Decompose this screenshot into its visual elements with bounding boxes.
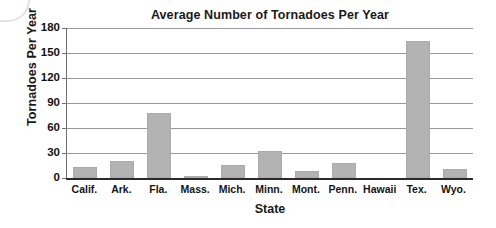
x-tick-label-fla: Fla. xyxy=(140,183,176,195)
x-tick-label-tex: Tex. xyxy=(399,183,435,195)
x-tick-label-mich: Mich. xyxy=(214,183,250,195)
x-axis-ticks: Calif.Ark.Fla.Mass.Mich.Minn.Mont.Penn.H… xyxy=(66,183,472,195)
x-axis-label: State xyxy=(60,202,480,216)
x-tick-label-calif: Calif. xyxy=(66,183,102,195)
y-tick-label-30: 30 xyxy=(22,146,60,158)
y-tick-label-120: 120 xyxy=(22,71,60,83)
y-tick-label-180: 180 xyxy=(22,21,60,33)
x-tick-label-mont: Mont. xyxy=(288,183,324,195)
x-tick-label-minn: Minn. xyxy=(251,183,287,195)
x-tick-label-mass: Mass. xyxy=(177,183,213,195)
y-tick-label-150: 150 xyxy=(22,46,60,58)
y-tick-mark-180 xyxy=(62,28,66,29)
y-tick-mark-0 xyxy=(62,178,66,179)
tornado-bar-chart: Average Number of Tornadoes Per Year Tor… xyxy=(0,0,496,228)
x-tick-label-ark: Ark. xyxy=(103,183,139,195)
y-tick-mark-120 xyxy=(62,78,66,79)
y-tick-label-90: 90 xyxy=(22,96,60,108)
x-tick-label-wyo: Wyo. xyxy=(436,183,472,195)
y-tick-mark-30 xyxy=(62,153,66,154)
y-tick-mark-60 xyxy=(62,128,66,129)
x-tick-label-penn: Penn. xyxy=(325,183,361,195)
y-tick-label-0: 0 xyxy=(22,171,60,183)
y-tick-mark-150 xyxy=(62,53,66,54)
y-tick-mark-90 xyxy=(62,103,66,104)
x-tick-label-hawaii: Hawaii xyxy=(362,183,398,195)
y-tick-label-60: 60 xyxy=(22,121,60,133)
